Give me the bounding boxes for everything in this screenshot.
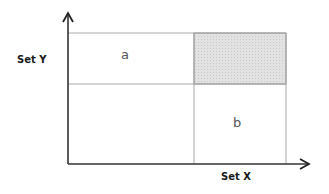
cell-label-a: a [121, 47, 129, 62]
y-axis-label: Set Y [17, 54, 47, 65]
cell-label-b: b [233, 115, 241, 130]
x-axis-label: Set X [221, 171, 251, 182]
set-diagram [0, 0, 329, 194]
shaded-cell [194, 33, 286, 84]
